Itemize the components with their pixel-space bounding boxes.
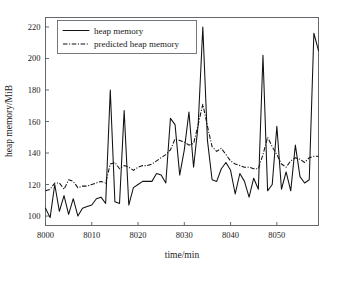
x-axis-label: time/min — [165, 250, 200, 260]
y-tick-label: 220 — [28, 22, 41, 32]
y-tick-label: 200 — [28, 53, 41, 63]
y-tick-label: 120 — [28, 180, 41, 190]
x-tick-label: 8050 — [268, 230, 285, 240]
x-tick-label: 8020 — [130, 230, 147, 240]
x-axis-ticks: 800080108020803080408050 — [37, 222, 285, 240]
series-heap-memory — [46, 27, 319, 218]
legend-label-heap-memory: heap memory — [94, 26, 144, 36]
chart-figure: 100120140160180200220 800080108020803080… — [0, 0, 347, 283]
legend-label-predicted-heap-memory: predicted heap memory — [94, 39, 179, 49]
data-series-group — [46, 27, 319, 218]
x-tick-label: 8040 — [222, 230, 239, 240]
y-tick-label: 100 — [28, 211, 41, 221]
x-tick-label: 8000 — [37, 230, 54, 240]
series-predicted-heap-memory — [46, 104, 319, 191]
y-axis-label: heap memory/MiB — [4, 85, 14, 157]
x-tick-label: 8030 — [176, 230, 193, 240]
y-tick-label: 180 — [28, 85, 41, 95]
chart-legend: heap memory predicted heap memory — [58, 21, 197, 54]
x-tick-label: 8010 — [83, 230, 100, 240]
y-tick-label: 160 — [28, 117, 41, 127]
chart-canvas: 100120140160180200220 800080108020803080… — [0, 0, 347, 283]
y-tick-label: 140 — [28, 148, 41, 158]
